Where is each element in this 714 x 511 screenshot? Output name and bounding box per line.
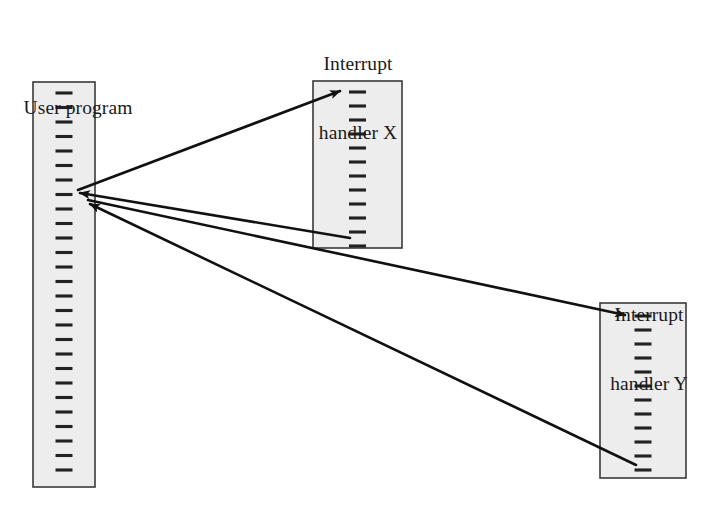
label-handler-y-line1: Interrupt [588,303,710,326]
label-interrupt-handler-x: Interrupt handler X [297,6,419,190]
label-handler-x-line2: handler X [297,121,419,144]
label-user-program-line1: User program [16,96,140,119]
interrupt-flow-diagram: User program Interrupt handler X Interru… [0,0,714,511]
label-handler-x-line1: Interrupt [297,52,419,75]
flow-arrow-return-x [80,193,350,238]
label-user-program: User program [16,50,140,165]
label-handler-y-line2: handler Y [588,372,710,395]
label-interrupt-handler-y: Interrupt handler Y [588,257,710,441]
